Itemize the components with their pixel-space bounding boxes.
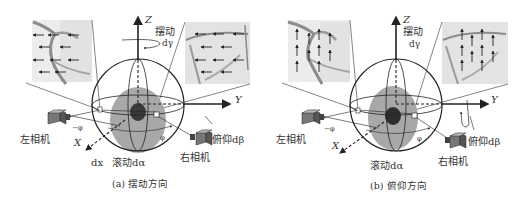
right-camera-label: 右相机	[438, 156, 468, 167]
yaw-delta-label: dγ	[409, 39, 420, 50]
x-axis-label: X	[332, 140, 339, 151]
left-camera-label: 左相机	[20, 134, 50, 145]
z-axis-label: Z	[145, 14, 152, 25]
neg-phi-label: −φ	[72, 123, 83, 134]
x-axis-label: X	[74, 137, 81, 148]
left-camera-icon	[302, 110, 324, 124]
y-axis-label: Y	[235, 94, 242, 105]
left-camera-icon	[48, 110, 70, 124]
caption-b: (b) 俯仰方向	[370, 180, 427, 191]
diagram-yaw	[0, 0, 262, 202]
panel-yaw-direction: Z 摆动 dγ Y X −φ φ 左相机 俯仰dβ dx 滚动dα 右相机 (a…	[0, 0, 262, 202]
diagram-pitch	[262, 0, 525, 202]
y-axis-label: Y	[491, 94, 498, 105]
phi-label: φ	[417, 134, 422, 145]
panel-pitch-direction: Z 摆动 dγ Y X −φ φ 左相机 俯仰dβ 滚动dα 右相机 (b) 俯…	[262, 0, 525, 202]
right-camera-icon	[190, 130, 212, 145]
left-camera-label: 左相机	[276, 134, 306, 145]
yaw-delta-label: dγ	[162, 38, 173, 49]
roll-label: 滚动dα	[370, 160, 403, 171]
phi-label: φ	[160, 133, 165, 144]
caption-a: (a) 摆动方向	[112, 178, 168, 189]
neg-phi-label: −φ	[324, 124, 335, 135]
eyeball-sphere	[350, 59, 442, 151]
roll-label: 滚动dα	[112, 157, 145, 168]
pitch-label: 俯仰dβ	[212, 134, 244, 145]
z-axis-label: Z	[403, 14, 410, 25]
right-camera-label: 右相机	[180, 152, 210, 163]
left-retina-image	[32, 20, 100, 110]
left-retina-image	[288, 20, 358, 110]
yaw-label: 摆动	[155, 26, 175, 37]
yaw-label: 摆动	[403, 26, 423, 37]
right-camera-icon	[445, 133, 466, 148]
pitch-label: 俯仰dβ	[468, 136, 500, 147]
dx-label: dx	[91, 157, 103, 168]
